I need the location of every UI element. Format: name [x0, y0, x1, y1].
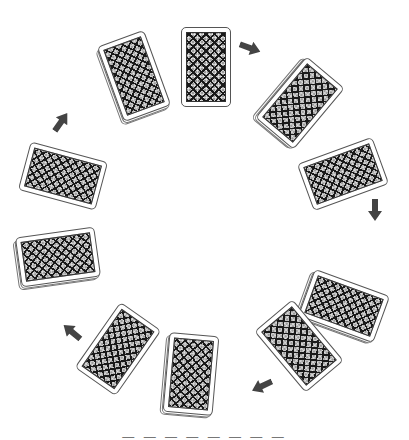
arrow-icon: [49, 109, 73, 135]
card-back-pattern: [262, 63, 338, 142]
arrow-icon: [237, 38, 262, 59]
card-back-pattern: [168, 337, 214, 410]
card-pile-2: [97, 30, 171, 122]
card-pile-3: [255, 56, 345, 149]
card-back-pattern: [21, 232, 96, 281]
card-back: [75, 302, 162, 396]
caption-cropped: — — — — — — — —: [0, 430, 409, 440]
card-back-pattern: [24, 148, 102, 205]
card-pile-7: [163, 332, 220, 416]
arrow-icon: [368, 199, 382, 221]
card-pile-8: [75, 302, 162, 396]
card-back: [163, 332, 220, 416]
card-pile-1: [181, 27, 231, 107]
card-pile-10: [18, 141, 108, 210]
card-pile-9: [15, 227, 101, 288]
card-back-pattern: [103, 36, 165, 115]
card-back-pattern: [82, 309, 155, 389]
card-circle-diagram: [0, 0, 409, 440]
arrow-icon: [59, 320, 85, 345]
card-back: [18, 141, 108, 210]
card-back: [255, 56, 345, 149]
card-back-pattern: [303, 143, 382, 205]
arrow-icon: [249, 375, 275, 397]
card-back: [97, 30, 171, 122]
card-back-pattern: [186, 32, 226, 102]
card-back: [181, 27, 231, 107]
